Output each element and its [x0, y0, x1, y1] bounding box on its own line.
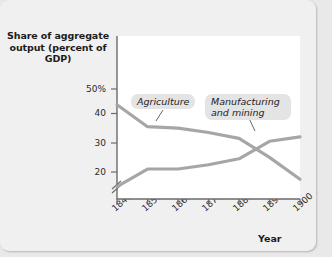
series-label-agriculture: Agriculture: [131, 94, 195, 109]
line-chart: Share of aggregate output (percent of GD…: [0, 0, 332, 257]
plot-area: [0, 0, 332, 257]
series-label-manufacturing: Manufacturing and mining: [205, 94, 291, 120]
